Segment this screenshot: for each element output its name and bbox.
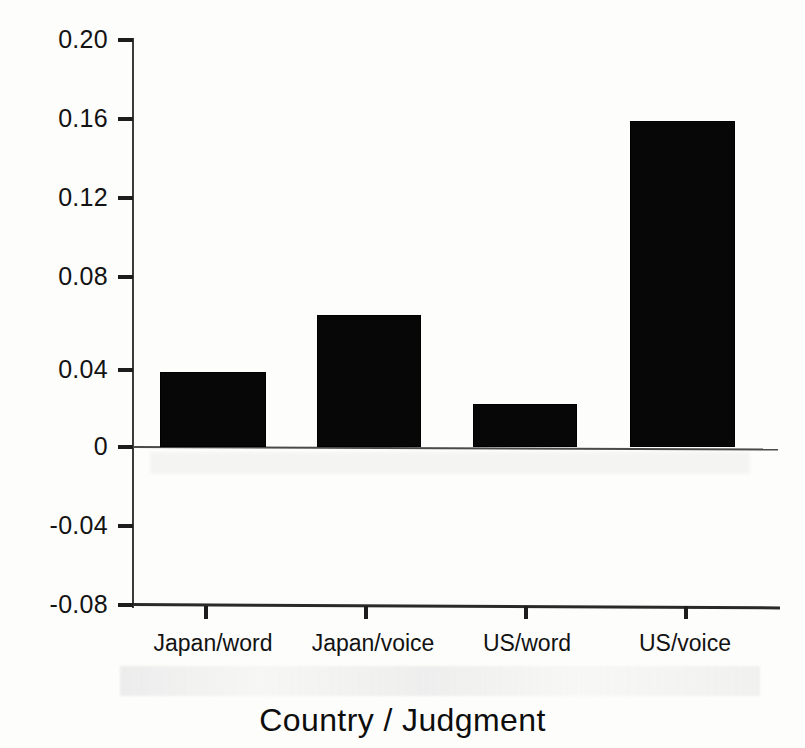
x-tick-label-us-voice: US/voice [639,630,731,657]
x-tick-mark [524,606,528,619]
x-tick-label-us-word: US/word [483,630,571,657]
y-tick-mark [118,603,133,607]
y-tick-label: 0 [16,432,108,461]
x-tick-mark [684,606,688,619]
y-tick-label: -0.04 [16,511,108,540]
x-tick-label-japan-voice: Japan/voice [312,630,435,657]
y-tick-mark [118,196,133,200]
y-tick-label: 0.04 [16,355,108,384]
y-tick-mark [118,368,133,372]
scan-artifact [120,666,760,696]
y-tick-label: 0.08 [16,262,108,291]
y-tick-mark [118,38,133,42]
x-tick-label-japan-word: Japan/word [154,630,273,657]
x-axis-line [131,603,780,609]
y-axis-line [132,38,134,608]
scan-artifact [150,452,750,474]
y-tick-label: 0.16 [16,104,108,133]
y-tick-mark [118,117,133,121]
plot-area: 0.20 0.16 0.12 0.08 0.04 0 -0.04 -0.08 [0,0,805,748]
bar-us-word [473,404,577,447]
x-axis-title: Country / Judgment [0,702,805,739]
y-tick-label: 0.12 [16,183,108,212]
x-tick-mark [204,606,208,619]
y-tick-label: -0.08 [16,590,108,619]
bar-us-voice [630,121,735,447]
y-tick-mark [118,275,133,279]
y-tick-label: 0.20 [16,25,108,54]
y-tick-mark [118,445,133,449]
bar-japan-voice [317,315,421,447]
bar-japan-word [160,372,266,447]
y-tick-mark [118,524,133,528]
x-tick-mark [364,606,368,619]
bar-chart-figure: 0.20 0.16 0.12 0.08 0.04 0 -0.04 -0.08 [0,0,805,748]
